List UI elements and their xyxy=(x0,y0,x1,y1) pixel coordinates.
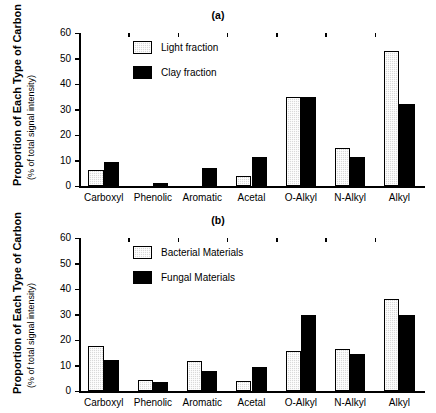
y-axis-tick xyxy=(75,365,79,367)
y-axis-line xyxy=(79,238,81,392)
y-axis-tick xyxy=(75,135,79,137)
x-axis-line xyxy=(79,186,425,188)
y-axis-title: Proportion of Each Type of Carbon xyxy=(12,4,23,186)
bar-light xyxy=(384,299,399,391)
legend-label: Bacterial Materials xyxy=(161,246,243,259)
y-axis-tick xyxy=(75,263,79,265)
bar-light xyxy=(236,381,251,391)
bar-light xyxy=(286,351,301,391)
bar-light xyxy=(138,380,153,391)
bar-dark xyxy=(252,157,267,186)
bar-dark xyxy=(350,157,365,186)
y-axis-tick xyxy=(75,33,79,35)
bar-dark xyxy=(104,162,119,186)
x-axis-tick xyxy=(178,33,180,37)
y-axis-tick xyxy=(75,289,79,291)
x-axis-tick xyxy=(276,33,278,37)
bar-light xyxy=(286,97,301,186)
x-axis-tick xyxy=(178,238,180,242)
figure-root: (a) Proportion of Each Type of Carbon (%… xyxy=(0,0,436,413)
y-axis-tick-label: 30 xyxy=(49,310,71,320)
x-axis-tick-label: Alkyl xyxy=(359,398,436,408)
bar-dark xyxy=(399,315,414,391)
y-axis-line xyxy=(79,33,81,187)
y-axis-subtitle: (% of total signal intensity) xyxy=(27,283,36,388)
legend-swatch-dark xyxy=(133,66,152,79)
legend-label: Light fraction xyxy=(161,41,218,54)
bar-dark xyxy=(301,315,316,392)
bar-dark xyxy=(350,354,365,391)
bar-light xyxy=(335,349,350,391)
y-axis-tick-label: 60 xyxy=(49,233,71,243)
x-axis-tick xyxy=(375,238,377,242)
legend-swatch-light xyxy=(133,41,152,54)
y-axis-tick-label: 20 xyxy=(49,335,71,345)
x-axis-tick xyxy=(325,238,327,242)
bar-dark xyxy=(153,382,168,391)
y-axis-tick-label: 10 xyxy=(49,156,71,166)
bar-dark xyxy=(399,104,414,186)
bar-light xyxy=(335,148,350,186)
y-axis-subtitle: (% of total signal intensity) xyxy=(27,75,36,180)
x-axis-tick xyxy=(128,238,130,242)
bar-light xyxy=(88,346,103,391)
bar-dark xyxy=(252,367,267,391)
y-axis-tick xyxy=(75,84,79,86)
legend-label: Fungal Materials xyxy=(161,271,235,284)
bar-light xyxy=(88,170,103,186)
y-axis-tick xyxy=(75,109,79,111)
panel-a-plot-area: 0102030405060CarboxylPhenolicAromaticAce… xyxy=(79,33,424,186)
bar-dark xyxy=(202,371,217,391)
bar-light xyxy=(187,361,202,391)
x-axis-tick xyxy=(227,33,229,37)
y-axis-tick xyxy=(75,391,79,393)
y-axis-tick-label: 60 xyxy=(49,28,71,38)
panel-b-label: (b) xyxy=(188,214,248,226)
legend-swatch-dark xyxy=(133,271,152,284)
y-axis-tick xyxy=(75,238,79,240)
y-axis-tick xyxy=(75,160,79,162)
bar-dark xyxy=(202,168,217,186)
panel-a-label: (a) xyxy=(188,9,248,21)
y-axis-tick xyxy=(75,314,79,316)
y-axis-tick-label: 40 xyxy=(49,79,71,89)
legend-swatch-light xyxy=(133,246,152,259)
y-axis-tick xyxy=(75,186,79,188)
panel-a: (a) Proportion of Each Type of Carbon (%… xyxy=(0,0,436,205)
y-axis-tick xyxy=(75,340,79,342)
x-axis-tick xyxy=(128,33,130,37)
bar-light xyxy=(384,51,399,186)
bar-dark xyxy=(301,97,316,186)
x-axis-tick xyxy=(276,238,278,242)
y-axis-tick-label: 20 xyxy=(49,130,71,140)
bar-light xyxy=(236,176,251,186)
legend-label: Clay fraction xyxy=(161,66,217,79)
y-axis-tick-label: 0 xyxy=(49,386,71,396)
y-axis-tick-label: 30 xyxy=(49,105,71,115)
y-axis-tick-label: 40 xyxy=(49,284,71,294)
x-axis-line xyxy=(79,391,425,393)
panel-a-y-axis-title-group: Proportion of Each Type of Carbon (% of … xyxy=(0,0,38,205)
y-axis-tick xyxy=(75,58,79,60)
panel-b-plot-area: 0102030405060CarboxylPhenolicAromaticAce… xyxy=(79,238,424,391)
x-axis-tick xyxy=(375,33,377,37)
x-axis-tick xyxy=(325,33,327,37)
y-axis-tick-label: 0 xyxy=(49,181,71,191)
x-axis-tick xyxy=(227,238,229,242)
y-axis-tick-label: 10 xyxy=(49,361,71,371)
bar-dark xyxy=(104,360,119,391)
y-axis-title: Proportion of Each Type of Carbon xyxy=(12,212,23,394)
y-axis-tick-label: 50 xyxy=(49,259,71,269)
x-axis-tick-label: Alkyl xyxy=(359,193,436,203)
panel-b: (b) Proportion of Each Type of Carbon (%… xyxy=(0,205,436,413)
y-axis-tick-label: 50 xyxy=(49,54,71,64)
bar-dark xyxy=(153,183,168,186)
panel-b-y-axis-title-group: Proportion of Each Type of Carbon (% of … xyxy=(0,205,38,413)
